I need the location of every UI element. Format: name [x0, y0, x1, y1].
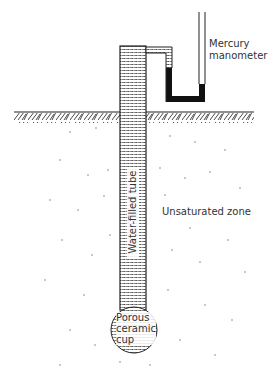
unsaturated-zone-label: Unsaturated zone: [162, 206, 251, 218]
cup-label-line3: cup: [116, 334, 156, 345]
manometer-label-line1: Mercury: [209, 38, 267, 50]
cup-label-line1: Porous: [116, 312, 156, 323]
manometer-label-line2: manometer: [209, 50, 267, 62]
manometer-connector: [146, 47, 172, 68]
porous-ceramic-cup-label: Porous ceramic cup: [116, 312, 156, 345]
mercury-manometer-label: Mercury manometer: [209, 38, 267, 62]
water-filled-tube-label: Water-filled tube: [127, 167, 139, 257]
cup-label-line2: ceramic: [116, 323, 156, 334]
